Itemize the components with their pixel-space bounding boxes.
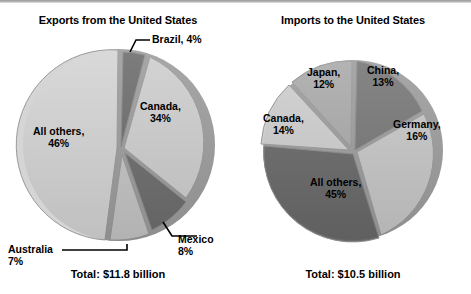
imports-label-china: China, 13% — [367, 64, 399, 88]
imports-label-japan-name: Japan, — [307, 66, 340, 78]
imports-label-canada-value: 14% — [263, 124, 304, 136]
exports-label-australia-value: 7% — [8, 255, 53, 267]
exports-label-all-others-value: 46% — [33, 137, 84, 149]
exports-label-canada: Canada, 34% — [140, 100, 181, 124]
imports-label-japan-value: 12% — [307, 78, 340, 90]
exports-label-australia-name: Australia — [8, 243, 53, 255]
imports-label-canada-name: Canada, — [263, 112, 304, 124]
imports-label-all-others: All others, 45% — [310, 176, 361, 200]
exports-pie-panel: Exports from the United States — [0, 0, 236, 294]
imports-label-canada: Canada, 14% — [263, 112, 304, 136]
exports-label-brazil-text: Brazil, 4% — [152, 33, 202, 45]
imports-label-germany-value: 16% — [393, 130, 441, 142]
exports-label-mexico-name: Mexico — [178, 233, 214, 245]
exports-label-mexico-value: 8% — [178, 245, 214, 257]
exports-leader-australia — [62, 244, 127, 250]
exports-label-mexico: Mexico 8% — [178, 233, 214, 257]
exports-total-label: Total: $11.8 billion — [0, 268, 236, 280]
exports-label-all-others-name: All others, — [33, 125, 84, 137]
imports-label-germany: Germany, 16% — [393, 118, 441, 142]
exports-label-all-others: All others, 46% — [33, 125, 84, 149]
exports-label-canada-value: 34% — [140, 112, 181, 124]
imports-total-label: Total: $10.5 billion — [235, 268, 471, 280]
imports-label-china-value: 13% — [367, 76, 399, 88]
imports-label-china-name: China, — [367, 64, 399, 76]
imports-label-all-others-value: 45% — [310, 188, 361, 200]
exports-label-brazil: Brazil, 4% — [152, 33, 202, 45]
dual-pie-chart-figure: Exports from the United States — [0, 0, 471, 294]
exports-label-canada-name: Canada, — [140, 100, 181, 112]
imports-label-germany-name: Germany, — [393, 118, 441, 130]
imports-label-japan: Japan, 12% — [307, 66, 340, 90]
imports-pie-panel: Imports to the United States Chi — [235, 0, 471, 294]
exports-label-australia: Australia 7% — [8, 243, 53, 267]
imports-label-all-others-name: All others, — [310, 176, 361, 188]
imports-pie-svg — [235, 0, 471, 294]
